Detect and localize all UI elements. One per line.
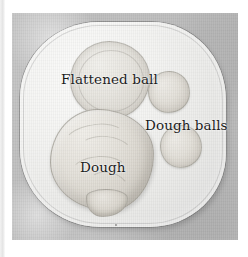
label-dough-balls: Dough balls [145, 119, 228, 133]
dough-fold [61, 120, 131, 165]
photo-speck [115, 224, 117, 226]
scan-edge-strip [0, 0, 5, 257]
figure-root: Flattened ball Dough balls Dough [0, 0, 248, 257]
photograph: Flattened ball Dough balls Dough [12, 13, 238, 240]
label-dough: Dough [80, 161, 125, 175]
label-flattened-ball: Flattened ball [61, 73, 158, 87]
